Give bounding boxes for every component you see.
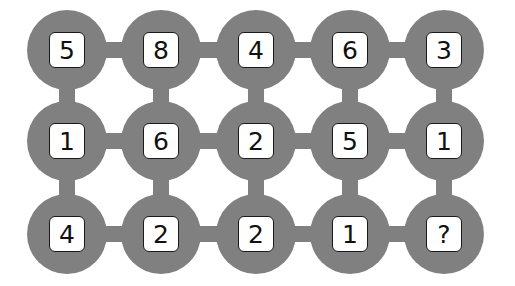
grid-node: 6 [310,10,390,90]
grid-node: 3 [404,10,484,90]
number-cell: 3 [426,32,462,68]
number-cell: 4 [49,216,85,252]
number-cell: 1 [426,123,462,159]
grid-node: ? [404,194,484,274]
number-cell: 6 [143,123,179,159]
number-cell: 2 [143,216,179,252]
number-cell: 1 [332,216,368,252]
grid-node: 4 [216,10,296,90]
number-cell: 1 [49,123,85,159]
number-cell: 4 [238,32,274,68]
number-cell: 6 [332,32,368,68]
number-cell: 5 [49,32,85,68]
grid-node: 2 [216,101,296,181]
grid-node: 2 [216,194,296,274]
number-grid-puzzle: 5 8 4 6 3 1 6 2 5 1 4 2 2 1 ? [0,0,515,286]
grid-node: 1 [310,194,390,274]
grid-node: 5 [27,10,107,90]
number-cell: 2 [238,123,274,159]
grid-node: 8 [121,10,201,90]
grid-node: 4 [27,194,107,274]
grid-node: 2 [121,194,201,274]
question-cell: ? [426,216,462,252]
grid-node: 6 [121,101,201,181]
grid-node: 1 [27,101,107,181]
number-cell: 8 [143,32,179,68]
grid-node: 5 [310,101,390,181]
grid-node: 1 [404,101,484,181]
number-cell: 5 [332,123,368,159]
number-cell: 2 [238,216,274,252]
